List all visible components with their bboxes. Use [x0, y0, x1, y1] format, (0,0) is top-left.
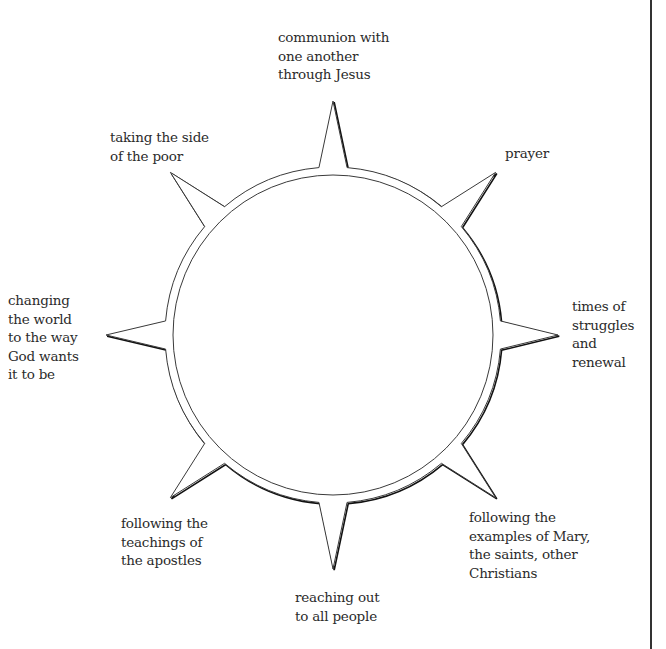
label-right-struggles-renewal: times of struggles and renewal [572, 297, 634, 371]
label-lower-right-examples: following the examples of Mary, the sain… [469, 508, 590, 582]
label-bottom-reaching-out: reaching out to all people [295, 588, 380, 625]
right-margin-rule [650, 0, 652, 649]
label-top-communion: communion with one another through Jesus [278, 28, 389, 84]
spikes [106, 101, 559, 570]
spiked-outer-outline [106, 101, 558, 569]
label-left-changing-world: changing the world to the way God wants … [8, 291, 79, 384]
diagram-page: communion with one another through Jesus… [0, 0, 666, 649]
label-upper-right-prayer: prayer [505, 144, 549, 163]
label-lower-left-apostles: following the teachings of the apostles [121, 514, 208, 570]
label-upper-left-poor: taking the side of the poor [110, 128, 209, 165]
